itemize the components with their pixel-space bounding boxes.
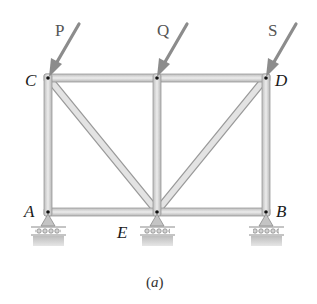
figure-caption-letter: a xyxy=(151,274,159,290)
joint-pin-B xyxy=(264,210,268,214)
truss-figure: P Q S C D A E B (a) xyxy=(0,0,317,304)
member-vertical-middle xyxy=(153,74,161,216)
load-label-S: S xyxy=(268,22,277,39)
support-E xyxy=(140,214,175,246)
joint-pin-D xyxy=(264,76,268,80)
figure-caption: (a) xyxy=(146,274,164,291)
member-DE xyxy=(158,80,264,210)
joint-label-B: B xyxy=(276,203,286,220)
load-label-P: P xyxy=(55,22,64,39)
joint-label-C: C xyxy=(25,72,36,89)
joint-label-D: D xyxy=(275,72,287,89)
joint-pin-E xyxy=(155,210,159,214)
joint-pin-A xyxy=(46,210,50,214)
support-A xyxy=(31,214,66,246)
joint-label-A: A xyxy=(24,203,34,220)
member-BD xyxy=(262,74,270,216)
truss-diagram xyxy=(0,0,317,304)
member-CE xyxy=(50,80,156,210)
joint-pin-top-middle xyxy=(155,76,159,80)
load-label-Q: Q xyxy=(157,22,169,39)
joint-label-E: E xyxy=(117,224,127,241)
member-AC xyxy=(44,74,52,216)
